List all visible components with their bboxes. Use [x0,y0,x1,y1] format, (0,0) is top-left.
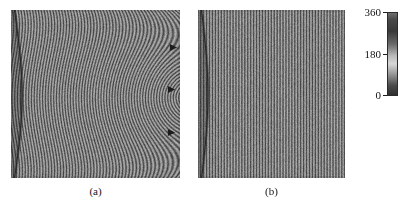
colorbar-tick-0 [383,95,387,96]
colorbar-tick-180 [383,54,387,55]
colorbar-label-max: 360 [353,7,381,18]
colorbar-label-mid: 180 [353,49,381,60]
panel-b-image [198,10,345,178]
figure-root: (a) (b) 360 180 0 [0,0,405,208]
colorbar-gradient [387,12,398,96]
colorbar-label-min: 0 [353,90,381,101]
panel-b-caption: (b) [198,185,345,198]
panel-a-caption: (a) [11,185,180,198]
colorbar-tick-360 [383,12,387,13]
panel-b[interactable] [198,10,345,178]
panel-a-image [11,10,180,178]
panel-a[interactable] [11,10,180,178]
